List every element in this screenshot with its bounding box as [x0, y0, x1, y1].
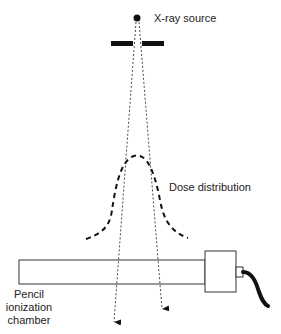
source-label: X-ray source	[154, 12, 216, 24]
x-ray-source-dot	[134, 15, 141, 22]
beam-edge-right	[139, 22, 162, 309]
beam-edge-left	[114, 22, 136, 322]
chamber-head	[205, 251, 236, 292]
chamber-label-line3: chamber	[8, 314, 51, 326]
dose-label: Dose distribution	[169, 181, 251, 193]
collimator	[111, 41, 164, 46]
chamber-label-line1: Pencil	[14, 288, 44, 300]
dose-distribution-curve	[86, 156, 188, 239]
beam-edges	[114, 22, 162, 322]
chamber-label-line2: ionization	[6, 301, 52, 313]
pencil-ionization-chamber	[19, 260, 205, 284]
ct-dose-diagram: X-ray source Dose distribution Pencil io…	[0, 0, 281, 334]
cable	[243, 272, 268, 306]
